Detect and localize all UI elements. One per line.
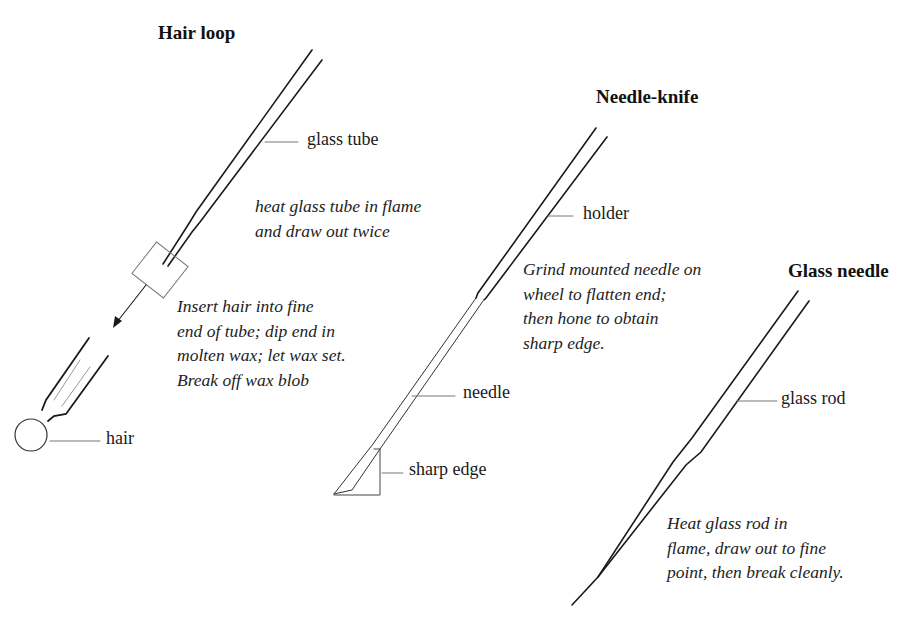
note-line: Grind mounted needle on [523, 257, 701, 282]
note-line: Heat glass rod in [667, 511, 844, 536]
note-line: point, then break cleanly. [667, 560, 844, 585]
tube-tip-left [42, 338, 89, 410]
note-line: sharp edge. [523, 331, 701, 356]
note-insert-hair: Insert hair into fine end of tube; dip e… [177, 294, 346, 392]
note-line: flame, draw out to fine [667, 536, 844, 561]
note-line: wheel to flatten end; [523, 282, 701, 307]
label-needle: needle [463, 382, 510, 403]
arrow-shaft [117, 285, 146, 322]
hair-strand-1 [54, 360, 80, 400]
note-line: and draw out twice [255, 219, 421, 244]
note-grind-needle: Grind mounted needle on wheel to flatten… [523, 257, 701, 355]
note-line: then hone to obtain [523, 306, 701, 331]
note-line: Insert hair into fine [177, 294, 346, 319]
note-line: Break off wax blob [177, 368, 346, 393]
title-glass-needle: Glass needle [788, 260, 889, 282]
note-line: molten wax; let wax set. [177, 343, 346, 368]
note-line: end of tube; dip end in [177, 319, 346, 344]
label-glass-tube: glass tube [307, 129, 379, 150]
note-line: heat glass tube in flame [255, 194, 421, 219]
label-sharp-edge: sharp edge [409, 459, 486, 480]
label-hair: hair [106, 428, 134, 449]
sharp-edge-bracket [334, 449, 380, 495]
note-heat-glass-rod: Heat glass rod in flame, draw out to fin… [667, 511, 844, 585]
title-needle-knife: Needle-knife [596, 86, 698, 108]
title-hair-loop: Hair loop [158, 22, 235, 44]
tube-tip-right [48, 356, 108, 421]
note-heat-glass-tube: heat glass tube in flame and draw out tw… [255, 194, 421, 243]
label-holder: holder [583, 203, 629, 224]
hair-loop-circle [15, 419, 47, 451]
label-glass-rod: glass rod [781, 388, 846, 409]
